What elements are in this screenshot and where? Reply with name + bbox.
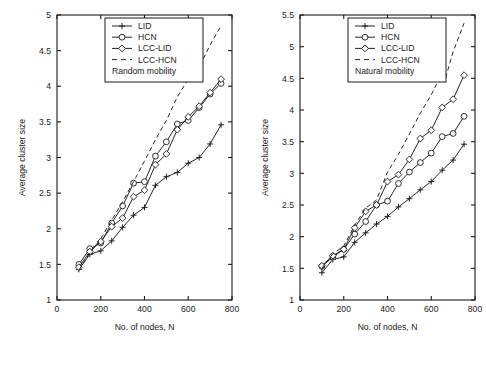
x-axis-title: No. of nodes, N: [115, 322, 175, 332]
legend-label-lcc-lid: LCC-LID: [381, 43, 414, 53]
marker-circle-hcn: [406, 169, 412, 175]
marker-circle-hcn: [363, 219, 369, 225]
marker-circle-hcn: [417, 160, 423, 166]
y-tick-label: 4: [46, 81, 51, 91]
legend-label-random-mobility: Random mobility: [112, 66, 177, 76]
legend-label-hcn: HCN: [138, 32, 157, 42]
x-tick-label: 600: [424, 304, 439, 314]
x-tick-label: 600: [181, 304, 196, 314]
y-tick-label: 3.5: [39, 117, 51, 127]
x-tick-label: 0: [55, 304, 60, 314]
series-line-lid: [322, 144, 464, 273]
legend-label-lid: LID: [381, 21, 394, 31]
y-tick-label: 1: [46, 295, 51, 305]
y-axis-title: Average cluster size: [260, 119, 270, 196]
marker-circle-hcn: [396, 181, 402, 187]
marker-circle-hcn: [428, 150, 434, 156]
chart-svg-1: 11.522.533.544.555.50200400600800No. of …: [243, 0, 486, 366]
marker-circle-hcn: [153, 153, 159, 159]
y-tick-label: 2.5: [39, 188, 51, 198]
chart-svg-0: 11.522.533.544.550200400600800No. of nod…: [0, 0, 243, 366]
legend-marker-circle: [362, 34, 368, 40]
y-tick-label: 3: [289, 169, 294, 179]
legend-label-lcc-hcn: LCC-HCN: [138, 55, 177, 65]
y-tick-label: 4.5: [282, 74, 294, 84]
marker-circle-hcn: [142, 179, 148, 185]
marker-diamond-lcc-lid: [406, 156, 413, 163]
y-tick-label: 2: [46, 224, 51, 234]
legend-label-natural-mobility: Natural mobility: [355, 66, 415, 76]
legend-label-lid: LID: [138, 21, 151, 31]
marker-circle-hcn: [120, 203, 126, 209]
legend-marker-circle: [119, 34, 125, 40]
x-tick-label: 800: [468, 304, 483, 314]
marker-diamond-lcc-lid: [461, 72, 468, 79]
marker-circle-hcn: [163, 139, 169, 145]
legend-label-lcc-lid: LCC-LID: [138, 43, 171, 53]
x-tick-label: 400: [380, 304, 395, 314]
x-tick-label: 400: [137, 304, 152, 314]
y-tick-label: 1: [289, 295, 294, 305]
x-axis-title: No. of nodes, N: [358, 322, 418, 332]
y-tick-label: 2: [289, 232, 294, 242]
legend-label-lcc-hcn: LCC-HCN: [381, 55, 420, 65]
x-tick-label: 0: [298, 304, 303, 314]
y-axis-title: Average cluster size: [17, 119, 27, 196]
marker-diamond-lcc-lid: [373, 202, 380, 209]
marker-circle-hcn: [439, 134, 445, 140]
y-tick-label: 3: [46, 153, 51, 163]
marker-diamond-lcc-lid: [340, 246, 347, 253]
legend-label-hcn: HCN: [381, 32, 400, 42]
marker-circle-hcn: [385, 198, 391, 204]
legend: LIDHCNLCC-LIDLCC-HCNNatural mobility: [348, 18, 446, 82]
y-tick-label: 4.5: [39, 46, 51, 56]
marker-diamond-lcc-lid: [130, 193, 137, 200]
y-tick-label: 5: [46, 10, 51, 20]
marker-circle-hcn: [450, 131, 456, 137]
marker-diamond-lcc-lid: [395, 171, 402, 178]
y-tick-label: 5.5: [282, 10, 294, 20]
y-tick-label: 2.5: [282, 200, 294, 210]
marker-circle-hcn: [461, 113, 467, 119]
y-tick-label: 3.5: [282, 137, 294, 147]
x-tick-label: 800: [225, 304, 240, 314]
y-tick-label: 4: [289, 105, 294, 115]
chart-panel-random-mobility: 11.522.533.544.550200400600800No. of nod…: [0, 0, 243, 366]
chart-panel-natural-mobility: 11.522.533.544.555.50200400600800No. of …: [243, 0, 486, 366]
y-tick-label: 1.5: [282, 264, 294, 274]
figure-container: 11.522.533.544.550200400600800No. of nod…: [0, 0, 486, 366]
marker-diamond-lcc-lid: [141, 187, 148, 194]
series-line-lid: [79, 125, 221, 270]
x-tick-label: 200: [337, 304, 352, 314]
x-tick-label: 200: [94, 304, 109, 314]
legend: LIDHCNLCC-LIDLCC-HCNRandom mobility: [105, 18, 203, 82]
y-tick-label: 1.5: [39, 260, 51, 270]
y-tick-label: 5: [289, 42, 294, 52]
